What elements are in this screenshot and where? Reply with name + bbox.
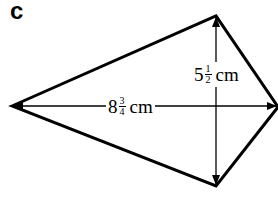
fraction: 1 2 [205,64,212,85]
horizontal-diagonal-label: 8 3 4 cm [106,94,155,119]
whole: 5 [194,65,204,84]
fraction: 3 4 [119,96,126,117]
unit: cm [216,65,239,84]
whole: 8 [108,97,118,116]
vertical-diagonal-label: 5 1 2 cm [192,62,241,87]
unit: cm [130,97,153,116]
